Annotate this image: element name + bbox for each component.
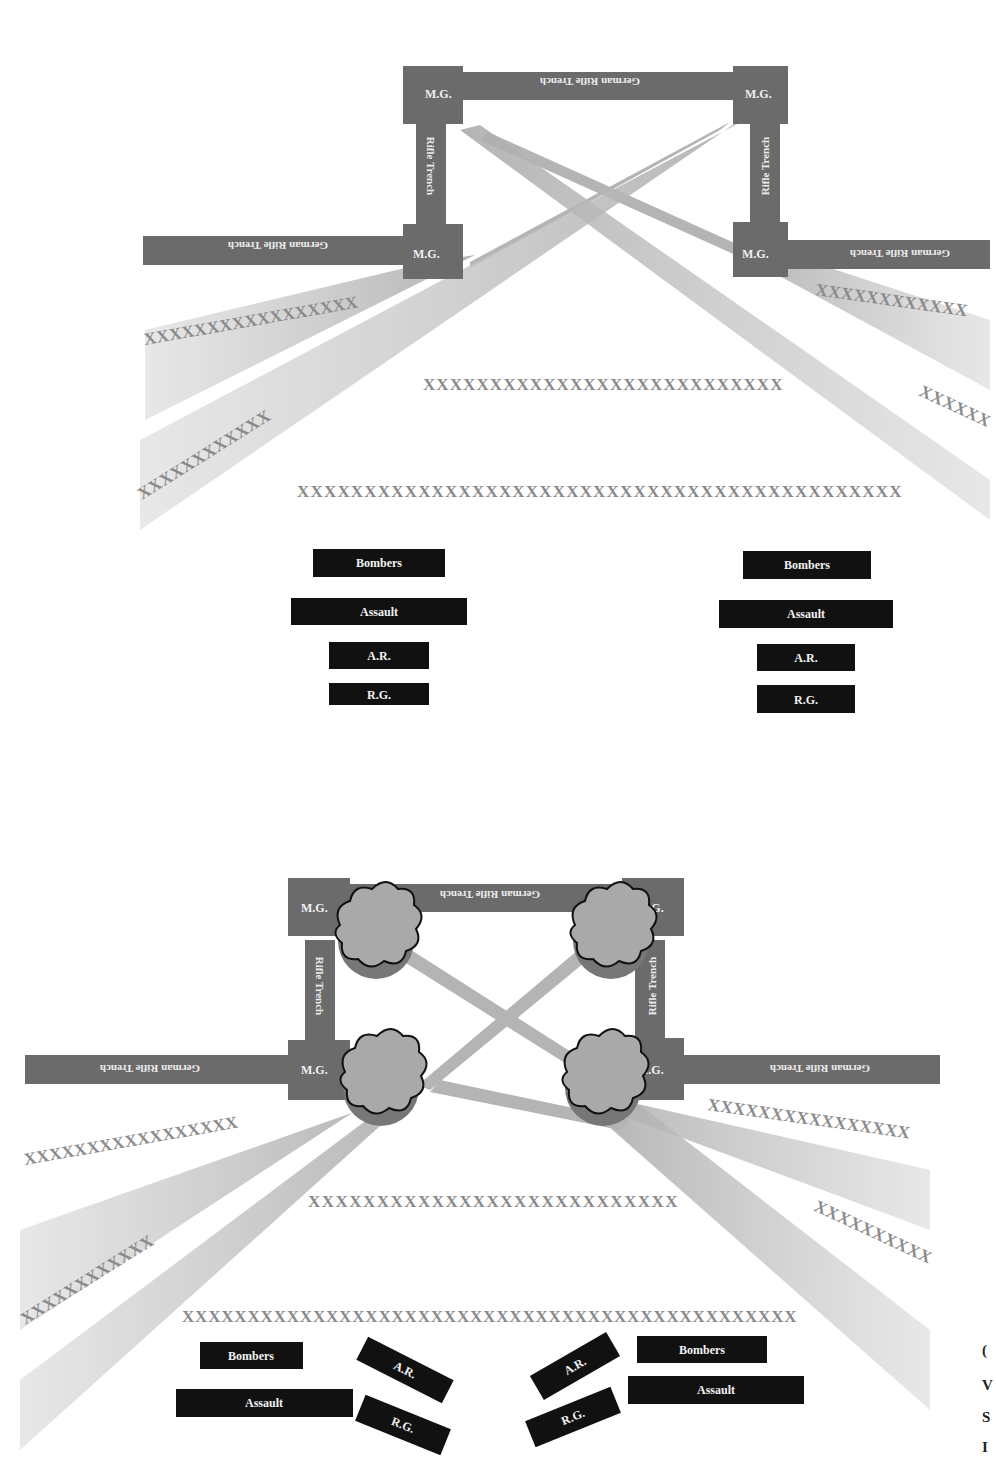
wire-right-lower: XXXXXX <box>916 381 994 431</box>
label-mg-top-left: M.G. <box>301 901 328 915</box>
unit-ar-rotated: A.R. <box>356 1337 453 1404</box>
label-rifle-trench-right: Rifle Trench <box>759 137 771 195</box>
edge-fragment: I <box>982 1439 988 1455</box>
unit-rg-label: R.G. <box>367 688 391 702</box>
assault-units-right: Bombers Assault A.R. R.G. <box>719 551 893 713</box>
label-mg-bottom-left: M.G. <box>413 247 440 261</box>
label-rifle-trench-right: Rifle Trench <box>646 957 658 1015</box>
page-edge-text-fragments: ( V S I <box>982 1342 993 1455</box>
unit-assault-label: Assault <box>787 607 825 621</box>
label-mg-bottom-right: M.G. <box>742 247 769 261</box>
unit-assault-label: Assault <box>360 605 398 619</box>
wire-left-upper: XXXXXXXXXXXXXXXXX <box>22 1112 239 1168</box>
label-trench-left: German Rifle Trench <box>228 240 328 252</box>
unit-rg-rotated: R.G. <box>525 1387 621 1447</box>
label-mg-top-right: M.G. <box>745 87 772 101</box>
edge-fragment: V <box>982 1377 993 1393</box>
smoke-cloud-icon <box>340 1029 426 1126</box>
label-rifle-trench-left: Rifle Trench <box>314 957 326 1015</box>
label-rifle-trench-left: Rifle Trench <box>425 137 437 195</box>
wire-front: XXXXXXXXXXXXXXXXXXXXXXXXXXXXXXXXXXXXXXXX… <box>182 1307 797 1326</box>
label-trench-right: German Rifle Trench <box>770 1063 870 1075</box>
smoke-clouds <box>335 882 656 1126</box>
unit-rg-rotated: R.G. <box>355 1395 451 1455</box>
wire-front: XXXXXXXXXXXXXXXXXXXXXXXXXXXXXXXXXXXXXXXX… <box>297 482 902 501</box>
page-canvas: German Rifle Trench German Rifle Trench … <box>0 0 996 1481</box>
label-trench-left: German Rifle Trench <box>100 1063 200 1075</box>
diagram-before: German Rifle Trench German Rifle Trench … <box>134 66 994 713</box>
unit-rg-label: R.G. <box>794 693 818 707</box>
label-mg-bottom-left: M.G. <box>301 1063 328 1077</box>
edge-fragment: ( <box>982 1342 987 1359</box>
unit-bombers-label: Bombers <box>356 556 402 570</box>
unit-assault-label: Assault <box>245 1396 283 1410</box>
label-trench-top: German Rifle Trench <box>540 76 640 88</box>
diagram-after: German Rifle Trench German Rifle Trench … <box>17 878 940 1455</box>
assault-units-left: Bombers Assault A.R. R.G. <box>176 1337 454 1456</box>
label-mg-top-left: M.G. <box>425 87 452 101</box>
unit-bombers-label: Bombers <box>228 1349 274 1363</box>
unit-bombers-label: Bombers <box>784 558 830 572</box>
edge-fragment: S <box>982 1409 990 1425</box>
label-trench-top: German Rifle Trench <box>440 889 540 901</box>
wire-middle: XXXXXXXXXXXXXXXXXXXXXXXXXXX <box>423 375 783 394</box>
label-trench-right: German Rifle Trench <box>850 248 950 260</box>
unit-bombers-label: Bombers <box>679 1343 725 1357</box>
unit-ar-label: A.R. <box>367 649 390 663</box>
assault-units-right: A.R. R.G. Bombers Assault <box>525 1332 804 1447</box>
unit-ar-label: A.R. <box>794 651 817 665</box>
unit-assault-label: Assault <box>697 1383 735 1397</box>
assault-units-left: Bombers Assault A.R. R.G. <box>291 549 467 705</box>
wire-middle: XXXXXXXXXXXXXXXXXXXXXXXXXXX <box>308 1192 678 1211</box>
